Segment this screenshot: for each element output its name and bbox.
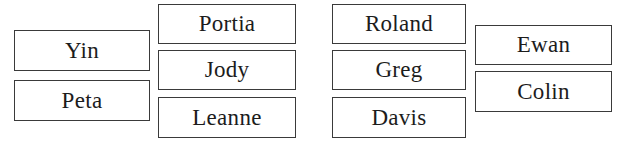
name-box-greg: Greg [332, 50, 466, 90]
name-box-yin: Yin [14, 30, 150, 71]
name-label: Colin [517, 79, 570, 105]
name-box-roland: Roland [332, 4, 466, 44]
name-box-portia: Portia [158, 4, 296, 44]
name-box-davis: Davis [332, 97, 466, 138]
name-label: Davis [371, 105, 426, 131]
name-label: Yin [65, 38, 99, 64]
name-label: Leanne [192, 105, 261, 131]
name-label: Peta [62, 88, 103, 114]
name-box-ewan: Ewan [475, 25, 612, 65]
name-box-peta: Peta [14, 80, 150, 121]
name-label: Ewan [517, 32, 571, 58]
name-box-colin: Colin [475, 71, 612, 112]
name-label: Greg [375, 57, 422, 83]
name-label: Portia [199, 11, 256, 37]
name-box-jody: Jody [158, 50, 296, 90]
name-label: Roland [365, 11, 433, 37]
name-box-leanne: Leanne [158, 97, 296, 138]
name-label: Jody [205, 57, 250, 83]
